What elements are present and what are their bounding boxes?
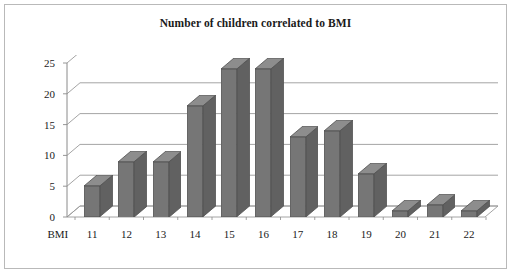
x-axis-tick-label: 19 xyxy=(349,229,383,240)
y-axis-tick-label: 10 xyxy=(29,150,55,161)
y-axis-tick-label: 25 xyxy=(29,58,55,69)
bar-13 xyxy=(153,151,169,217)
bar-14 xyxy=(187,95,203,217)
bar-3d-faces xyxy=(324,120,353,217)
bar-3d-faces xyxy=(392,200,421,217)
x-axis-tick-label: 16 xyxy=(246,229,280,240)
bar-3d-faces xyxy=(461,200,490,217)
bar-20 xyxy=(392,200,408,217)
bar-3d-faces xyxy=(427,194,456,217)
plot-area xyxy=(63,55,503,235)
x-axis-tick-label: 21 xyxy=(418,229,452,240)
y-axis-tick-label: 20 xyxy=(29,89,55,100)
bar-21 xyxy=(427,194,443,217)
bar-15 xyxy=(221,58,237,217)
bar-12 xyxy=(118,151,134,217)
bar-19 xyxy=(358,163,374,217)
x-axis-tick-label: 18 xyxy=(315,229,349,240)
bar-11 xyxy=(84,175,100,217)
chart-container: Number of children correlated to BMI 051… xyxy=(4,4,507,269)
x-axis-title: BMI xyxy=(41,229,75,240)
chart-title: Number of children correlated to BMI xyxy=(5,17,506,29)
bar-3d-faces xyxy=(255,58,284,217)
bar-3d-faces xyxy=(118,151,147,217)
y-axis-tick-label: 5 xyxy=(29,181,55,192)
bar-18 xyxy=(324,120,340,217)
bar-3d-faces xyxy=(84,175,113,217)
bar-3d-faces xyxy=(153,151,182,217)
x-axis-tick-label: 13 xyxy=(144,229,178,240)
x-axis-tick-label: 22 xyxy=(452,229,486,240)
x-axis-tick-label: 17 xyxy=(281,229,315,240)
x-axis-tick-label: 12 xyxy=(109,229,143,240)
bar-16 xyxy=(255,58,271,217)
bar-3d-faces xyxy=(187,95,216,217)
y-axis-tick-label: 15 xyxy=(29,120,55,131)
bar-17 xyxy=(290,126,306,217)
y-axis-tick-label: 0 xyxy=(29,212,55,223)
x-axis-tick-label: 14 xyxy=(178,229,212,240)
bar-22 xyxy=(461,200,477,217)
bar-3d-faces xyxy=(358,163,387,217)
bar-3d-faces xyxy=(221,58,250,217)
x-axis-tick-label: 11 xyxy=(75,229,109,240)
x-axis-tick-label: 15 xyxy=(212,229,246,240)
bar-3d-faces xyxy=(290,126,319,217)
x-axis-tick-label: 20 xyxy=(383,229,417,240)
